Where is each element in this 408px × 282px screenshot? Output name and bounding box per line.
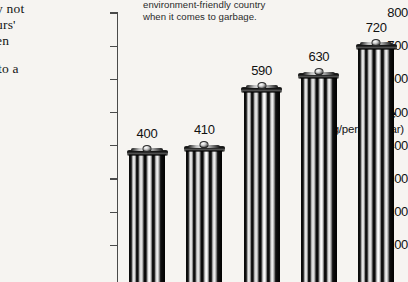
can-body [301,77,337,282]
y-axis-tick-300 [110,178,117,179]
y-axis-tick-400 [110,145,117,146]
can-knob-icon [257,82,266,89]
y-axis-tick-600 [110,79,117,80]
y-axis-tick-700 [110,46,117,47]
can-knob-icon [143,145,152,152]
bar-value-label: 590 [235,63,289,78]
y-axis-tick-200 [110,212,117,213]
bar-value-label: 630 [292,49,346,64]
bar-garbage-can [244,83,280,282]
y-axis-tick-800 [110,12,117,13]
y-axis-tick-100 [110,245,117,246]
y-axis-line [117,12,118,282]
bar-value-label: 720 [349,20,403,35]
bar-value-label: 410 [177,122,231,137]
can-body [244,91,280,282]
page-root: y not urs' en to a Waste (kg/person/year… [0,0,408,282]
bar-value-label: 400 [120,126,174,141]
can-body [186,150,222,282]
bar-garbage-can [129,146,165,282]
can-knob-icon [372,39,381,46]
bar-garbage-can [358,40,394,282]
bar-garbage-can [301,69,337,282]
can-body [129,154,165,282]
y-axis-tick-500 [110,112,117,113]
chart-plot-area: 800700600500400300200100 400410590630720 [0,0,408,282]
y-axis-tick-label-800: 800 [308,5,408,20]
can-knob-icon [314,68,323,75]
can-knob-icon [200,141,209,148]
bar-garbage-can [186,142,222,282]
can-body [358,48,394,282]
